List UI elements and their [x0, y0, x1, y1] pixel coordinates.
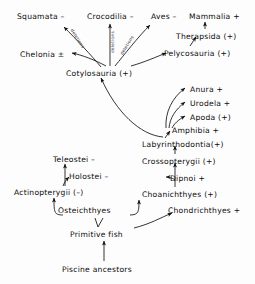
node-apoda: Apoda (+) — [190, 113, 231, 122]
node-mammalia: Mammalia + — [189, 12, 240, 21]
node-teleostei: Teleostei – — [53, 155, 95, 164]
node-anura: Anura + — [190, 85, 223, 94]
node-primitive-fish: Primitive fish — [70, 230, 123, 239]
node-actinopterygii: Actinopterygii (–) — [14, 188, 84, 197]
edge-cotylosauria-chelonia — [72, 53, 106, 66]
node-chelonia: Chelonia ± — [20, 50, 64, 59]
edge-primitivefish-osteichthyes — [95, 218, 98, 227]
node-choanichthyes: Choanichthyes (+) — [142, 190, 217, 199]
node-holostei: Holostei – — [69, 172, 109, 181]
node-amphibia: Amphibia + — [172, 126, 219, 135]
node-dipnoi: Dipnoi + — [170, 174, 205, 183]
node-crocodilia: Crocodilia – — [87, 12, 134, 21]
edge-cotylosauria-aves — [115, 25, 150, 66]
edge-amphibia-anura — [166, 88, 185, 128]
edge-primitivefish-chondrichthyes — [134, 213, 172, 228]
edge-cotylosauria-pelycosauria — [131, 53, 166, 66]
node-pelycosauria: Pelycosauria (+) — [164, 49, 230, 58]
edge-osteichthyes-choanichthyes — [130, 200, 139, 215]
edge-amphibia-urodela — [169, 102, 185, 128]
edge-labyrinthodontia-amphibia — [165, 131, 170, 138]
node-therapsida: Therapsida (+) — [176, 32, 236, 41]
node-urodela: Urodela + — [190, 99, 230, 108]
edge-label-deletions-aves: deletions — [119, 34, 135, 55]
edge-primitivefish-osteichthyes-right — [98, 218, 103, 227]
phylogeny-diagram: Squamata – Crocodilia – Aves – Mammalia … — [0, 0, 255, 284]
node-osteichthyes: Osteichthyes — [58, 206, 111, 215]
node-chondrichthyes: Chondrichthyes + — [168, 206, 240, 215]
node-aves: Aves – — [151, 12, 177, 21]
node-piscine-ancestors: Piscine ancestors — [62, 265, 132, 274]
edge-label-deletions-squamata: deletions — [70, 28, 86, 49]
node-squamata: Squamata – — [17, 12, 65, 21]
edge-label-deletions-crocodilia: deletions — [110, 31, 115, 53]
edge-amphibia-cotylosauria — [101, 78, 163, 137]
node-cotylosauria: Cotylosauria (+) — [66, 69, 132, 78]
node-labyrinthodontia: Labyrinthodontia(+) — [142, 140, 224, 149]
node-crossopterygii: Crossopterygii (+) — [142, 157, 216, 166]
